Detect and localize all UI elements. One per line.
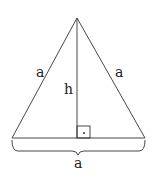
- base-label: a: [74, 155, 82, 171]
- right-angle-mark: [77, 126, 90, 138]
- base-brace: [12, 140, 145, 155]
- left-side: [12, 18, 77, 138]
- right-side-label: a: [115, 64, 123, 80]
- height-label: h: [64, 81, 73, 97]
- triangle-diagram: a a h a: [0, 0, 156, 178]
- right-angle-dot: [83, 132, 85, 134]
- triangle: [12, 18, 145, 155]
- left-side-label: a: [36, 64, 44, 80]
- right-side: [77, 18, 145, 138]
